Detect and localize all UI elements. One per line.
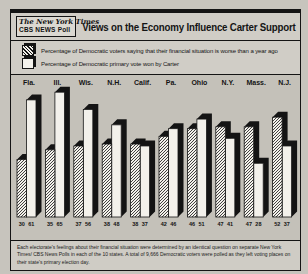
legend-row-carter-vote: Percentage of Democratic primary vote wo…	[21, 58, 294, 69]
state-label: Wis.	[79, 79, 93, 86]
finances-worse-value: 47	[217, 221, 223, 227]
carter-vote-bar	[169, 129, 179, 217]
finances-worse-bar	[216, 127, 226, 217]
carter-vote-bar	[140, 146, 150, 217]
bar-chart-canvas: Fla.3061Ill.3565Wis.3756N.H.3848Calif.38…	[11, 77, 300, 240]
carter-vote-value: 37	[284, 221, 290, 227]
hatched-bar-swatch-icon	[22, 45, 34, 56]
carter-vote-value: 46	[170, 221, 176, 227]
carter-vote-bar	[197, 119, 207, 217]
bar-group-Fla: Fla.3061	[17, 79, 42, 227]
carter-vote-bar	[112, 125, 122, 217]
newspaper-clipping: The New York Times CBS NEWS Poll Views o…	[0, 0, 308, 274]
footnote: Each electorate's feelings about their f…	[11, 240, 300, 270]
carter-vote-bar	[55, 92, 65, 217]
finances-worse-bar	[187, 129, 197, 217]
carter-vote-bar	[83, 109, 93, 217]
carter-vote-bar	[254, 163, 264, 217]
bar-group-NY: N.Y.4741	[216, 79, 241, 227]
legend-label-carter-vote: Percentage of Democratic primary vote wo…	[41, 61, 179, 67]
state-label: Ill.	[54, 79, 62, 86]
finances-worse-bar	[273, 117, 283, 217]
state-label: Pa.	[166, 79, 177, 86]
carter-vote-bar	[282, 146, 292, 217]
carter-vote-value: 56	[85, 221, 91, 227]
finances-worse-value: 52	[274, 221, 280, 227]
poll-graphic: The New York Times CBS NEWS Poll Views o…	[10, 13, 301, 271]
carter-vote-value: 28	[255, 221, 261, 227]
legend-label-worse-finances: Percentage of Democratic voters saying t…	[41, 48, 278, 54]
bar-group-Mass: Mass.4728	[244, 79, 269, 227]
nyt-logo-text: The New York Times	[19, 18, 73, 26]
finances-worse-bar	[244, 127, 254, 217]
finances-worse-bar	[74, 146, 84, 217]
finances-worse-bar	[102, 144, 112, 217]
state-label: Calif.	[134, 79, 151, 86]
finances-worse-value: 47	[246, 221, 252, 227]
bar-group-Wis: Wis.3756	[74, 79, 99, 227]
finances-worse-value: 35	[47, 221, 53, 227]
bar-group-Calif: Calif.3837	[131, 79, 156, 227]
cbs-poll-text: CBS NEWS Poll	[19, 26, 73, 33]
bar-group-NH: N.H.3848	[102, 79, 127, 227]
state-label: N.J.	[278, 79, 291, 86]
nyt-cbs-logo: The New York Times CBS NEWS Poll	[16, 16, 76, 37]
finances-worse-bar	[45, 150, 55, 217]
bar-group-NJ: N.J.5237	[273, 79, 298, 227]
chart-legend: Percentage of Democratic voters saying t…	[11, 41, 300, 75]
carter-vote-value: 61	[28, 221, 34, 227]
state-label: N.Y.	[221, 79, 234, 86]
carter-vote-value: 51	[199, 221, 205, 227]
finances-worse-value: 38	[104, 221, 110, 227]
state-label: N.H.	[107, 79, 121, 86]
finances-worse-value: 30	[19, 221, 25, 227]
finances-worse-value: 46	[189, 221, 195, 227]
bar-group-Ill: Ill.3565	[45, 79, 70, 227]
finances-worse-bar	[17, 159, 27, 217]
finances-worse-value: 38	[132, 221, 138, 227]
finances-worse-bar	[131, 144, 141, 217]
finances-worse-value: 37	[75, 221, 81, 227]
state-label: Ohio	[191, 79, 207, 86]
state-label: Mass.	[246, 79, 266, 86]
carter-vote-value: 48	[113, 221, 119, 227]
finances-worse-value: 42	[161, 221, 167, 227]
carter-vote-bar	[225, 138, 235, 217]
white-bar-swatch-icon	[22, 58, 34, 69]
carter-vote-bar	[27, 100, 37, 217]
finances-worse-bar	[159, 136, 169, 217]
bar-group-Pa: Pa.4246	[159, 79, 184, 227]
bar-group-Ohio: Ohio4651	[187, 79, 212, 227]
legend-row-worse-finances: Percentage of Democratic voters saying t…	[21, 45, 294, 56]
graphic-header: The New York Times CBS NEWS Poll Views o…	[11, 13, 300, 41]
chart-title: Views on the Economy Influence Carter Su…	[76, 13, 296, 40]
carter-vote-value: 65	[57, 221, 63, 227]
carter-vote-value: 41	[227, 221, 233, 227]
carter-vote-value: 37	[142, 221, 148, 227]
state-label: Fla.	[23, 79, 35, 86]
bar-chart-panel: Fla.3061Ill.3565Wis.3756N.H.3848Calif.38…	[11, 75, 300, 240]
